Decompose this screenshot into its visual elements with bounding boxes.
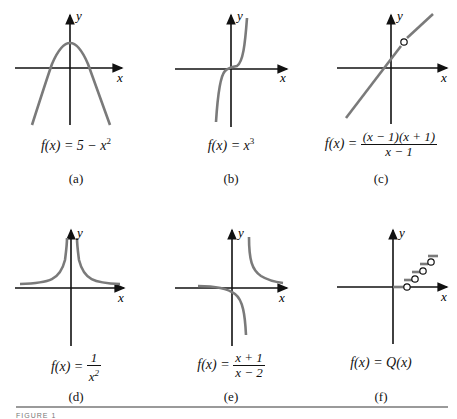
curve-a (32, 43, 110, 125)
x-axis-label: x (117, 290, 124, 305)
curve-e-left (198, 286, 246, 335)
graph-f: y x (305, 200, 457, 350)
panel-a: y x f(x) = 5 − x2 (a) (0, 0, 152, 200)
curve-c-upper (407, 14, 433, 38)
formula-b: f(x) = x3 (155, 136, 307, 154)
curve-c-lower (346, 46, 401, 118)
y-axis-label: y (397, 225, 405, 240)
open-circle (428, 259, 434, 265)
x-axis-label: x (278, 290, 285, 305)
open-circle (412, 276, 418, 282)
formula-e: f(x) = x + 1x − 2 (155, 351, 307, 380)
y-axis-label: y (236, 225, 244, 240)
panel-label-a: (a) (0, 171, 152, 187)
y-axis-label: y (395, 8, 403, 23)
graph-d: y x (0, 200, 152, 350)
y-axis-label: y (75, 225, 83, 240)
curve-e-right (249, 237, 283, 283)
panel-c: y x f(x) = (x − 1)(x + 1)x − 1 (c) (305, 0, 457, 200)
graph-b: y x (155, 0, 307, 150)
graph-a: y x (0, 0, 152, 150)
panel-label-c: (c) (305, 171, 457, 187)
x-axis-label: x (116, 70, 123, 85)
panel-label-b: (b) (155, 171, 307, 187)
formula-d: f(x) = 1x2 (0, 351, 152, 384)
panel-label-d: (d) (0, 389, 152, 405)
panel-label-e: (e) (155, 389, 307, 405)
x-axis-label: x (279, 70, 286, 85)
graph-c: y x (305, 0, 457, 150)
hole-marker (401, 39, 407, 45)
panel-d: y x f(x) = 1x2 (d) (0, 200, 152, 400)
formula-c: f(x) = (x − 1)(x + 1)x − 1 (305, 130, 457, 159)
y-axis-label: y (74, 8, 82, 23)
formula-f: f(x) = Q(x) (305, 355, 457, 371)
x-axis-label: x (440, 70, 447, 85)
panel-label-f: (f) (305, 389, 457, 405)
graph-e: y x (155, 200, 307, 350)
panel-b: y x f(x) = x3 (b) (155, 0, 307, 200)
open-circle (404, 284, 410, 290)
curve-d-left (20, 238, 67, 284)
x-axis-label: x (440, 289, 447, 304)
formula-a: f(x) = 5 − x2 (0, 136, 152, 154)
panel-f: y x f(x) = Q(x) (f) (305, 200, 457, 400)
figure-divider (16, 406, 448, 408)
curve-d-right (77, 238, 120, 284)
y-axis-label: y (235, 8, 243, 23)
figure-caption: FIGURE 1 (16, 412, 56, 419)
panel-e: y x f(x) = x + 1x − 2 (e) (155, 200, 307, 400)
open-circle (420, 268, 426, 274)
